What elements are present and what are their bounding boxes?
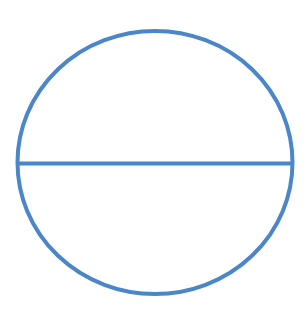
circle-diagram bbox=[0, 0, 308, 314]
background bbox=[0, 0, 308, 314]
